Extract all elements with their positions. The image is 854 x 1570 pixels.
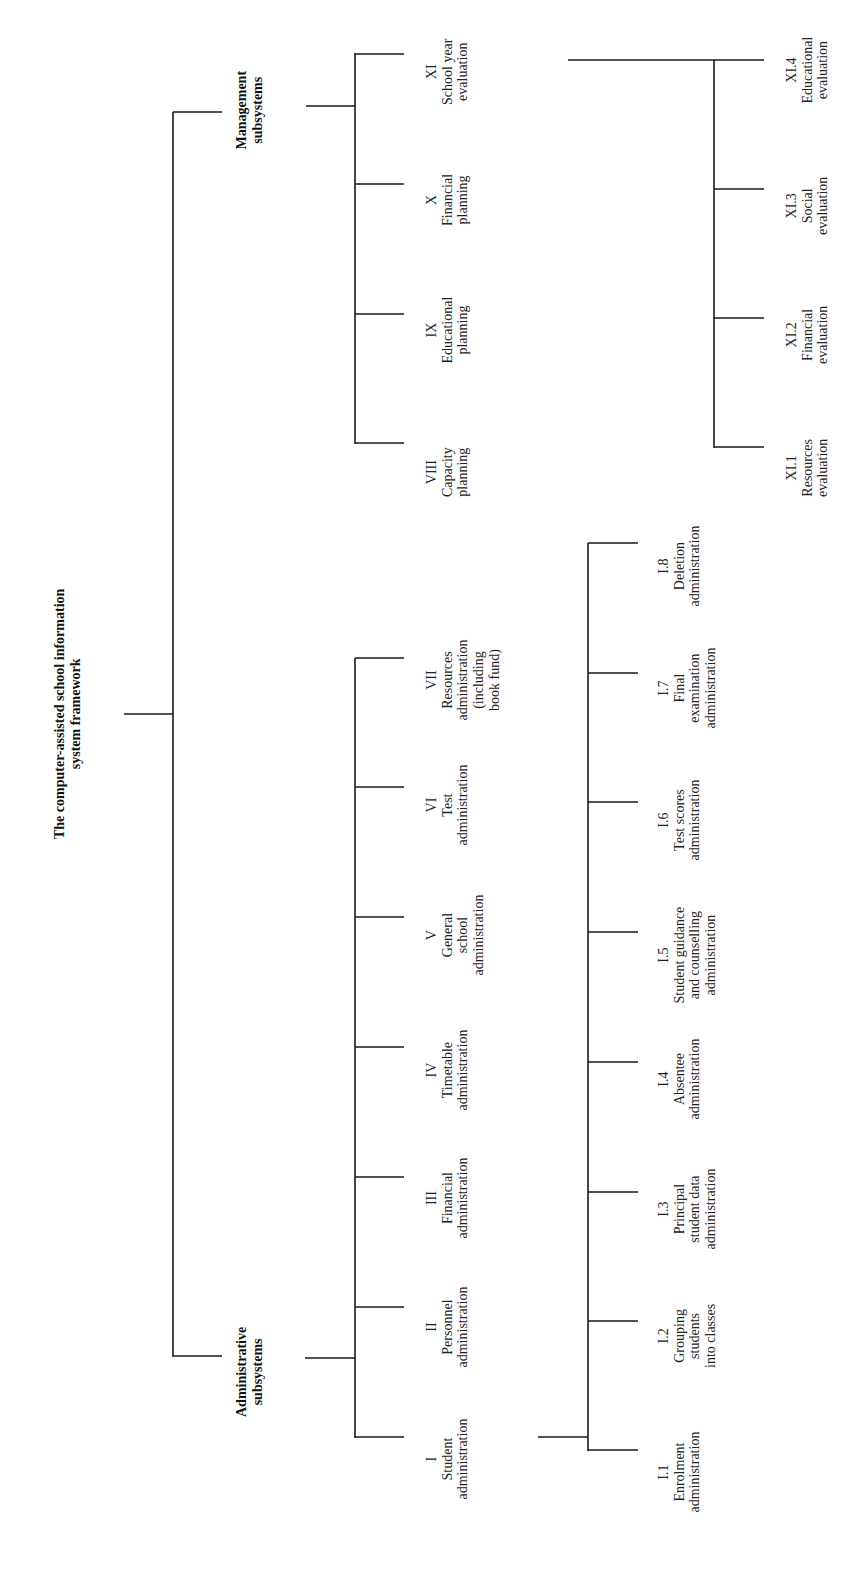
node-text: administration bbox=[455, 1158, 471, 1239]
node-text: administration bbox=[455, 765, 471, 846]
node-text: Financial bbox=[440, 174, 456, 226]
node-numeral: I.3 bbox=[656, 1169, 672, 1250]
node-numeral: VI bbox=[424, 765, 440, 846]
node-I.3: I.3 Principal student data administratio… bbox=[656, 1169, 719, 1250]
node-numeral: I.7 bbox=[656, 648, 672, 729]
node-text: Principal bbox=[672, 1169, 688, 1250]
node-text: administration bbox=[687, 1039, 703, 1120]
node-text: Enrolment bbox=[672, 1432, 688, 1513]
root-title: The computer-assisted school information… bbox=[52, 589, 83, 839]
label-line: subsystems bbox=[250, 71, 266, 150]
node-VIII: VIII Capacity planning bbox=[424, 447, 471, 497]
node-text: Financial bbox=[440, 1158, 456, 1239]
node-XI.4: XI.4 Educational evaluation bbox=[784, 37, 831, 104]
root-title-line-2: system framework bbox=[68, 589, 84, 839]
node-text: Student bbox=[440, 1419, 456, 1500]
node-XI.3: XI.3 Social evaluation bbox=[784, 177, 831, 235]
node-text: school bbox=[455, 895, 471, 976]
management-subsystems-label: Management subsystems bbox=[234, 71, 265, 150]
node-I.1: I.1 Enrolment administration bbox=[656, 1432, 703, 1513]
node-numeral: I.1 bbox=[656, 1432, 672, 1513]
node-I.7: I.7 Final examination administration bbox=[656, 648, 719, 729]
node-VI: VI Test administration bbox=[424, 765, 471, 846]
node-text: administration bbox=[455, 1287, 471, 1368]
node-text: planning bbox=[455, 447, 471, 497]
node-numeral: I.2 bbox=[656, 1304, 672, 1368]
node-text: Student guidance bbox=[672, 907, 688, 1004]
node-text: administration bbox=[455, 640, 471, 721]
node-text: evaluation bbox=[815, 177, 831, 235]
node-text: (including bbox=[471, 640, 487, 721]
node-II: II Personnel administration bbox=[424, 1287, 471, 1368]
label-line: Administrative bbox=[234, 1327, 250, 1417]
node-text: administration bbox=[687, 780, 703, 861]
node-I.2: I.2 Grouping students into classes bbox=[656, 1304, 719, 1368]
node-I.6: I.6 Test scores administration bbox=[656, 780, 703, 861]
label-line: Management bbox=[234, 71, 250, 150]
node-text: planning bbox=[455, 297, 471, 364]
node-text: Social bbox=[800, 177, 816, 235]
node-text: evaluation bbox=[815, 439, 831, 497]
node-IX: IX Educational planning bbox=[424, 297, 471, 364]
node-text: Test bbox=[440, 765, 456, 846]
node-text: Educational bbox=[800, 37, 816, 104]
node-X: X Financial planning bbox=[424, 174, 471, 226]
node-text: Personnel bbox=[440, 1287, 456, 1368]
node-text: administration bbox=[455, 1030, 471, 1111]
node-text: administration bbox=[471, 895, 487, 976]
node-I.8: I.8 Deletion administration bbox=[656, 526, 703, 607]
node-IV: IV Timetable administration bbox=[424, 1030, 471, 1111]
node-VII: VII Resources administration (including … bbox=[424, 640, 502, 721]
node-XI.1: XI.1 Resources evaluation bbox=[784, 439, 831, 497]
node-numeral: XI.3 bbox=[784, 177, 800, 235]
node-numeral: IX bbox=[424, 297, 440, 364]
node-numeral: I.5 bbox=[656, 907, 672, 1004]
administrative-subsystems-label: Administrative subsystems bbox=[234, 1327, 265, 1417]
node-text: evaluation bbox=[815, 306, 831, 364]
node-text: book fund) bbox=[487, 640, 503, 721]
node-text: students bbox=[687, 1304, 703, 1368]
node-text: School year bbox=[440, 39, 456, 105]
node-text: into classes bbox=[703, 1304, 719, 1368]
node-text: evaluation bbox=[815, 37, 831, 104]
node-numeral: III bbox=[424, 1158, 440, 1239]
node-text: administration bbox=[687, 1432, 703, 1513]
node-numeral: XI.4 bbox=[784, 37, 800, 104]
node-numeral: XI.1 bbox=[784, 439, 800, 497]
node-text: administration bbox=[703, 648, 719, 729]
node-numeral: VIII bbox=[424, 447, 440, 497]
node-text: administration bbox=[455, 1419, 471, 1500]
node-numeral: VII bbox=[424, 640, 440, 721]
node-text: Educational bbox=[440, 297, 456, 364]
node-text: planning bbox=[455, 174, 471, 226]
node-text: examination bbox=[687, 648, 703, 729]
node-numeral: IV bbox=[424, 1030, 440, 1111]
node-III: III Financial administration bbox=[424, 1158, 471, 1239]
node-text: Deletion bbox=[672, 526, 688, 607]
node-numeral: I bbox=[424, 1419, 440, 1500]
node-text: Financial bbox=[800, 306, 816, 364]
node-text: Capacity bbox=[440, 447, 456, 497]
node-text: Resources bbox=[800, 439, 816, 497]
node-text: Resources bbox=[440, 640, 456, 721]
node-V: V General school administration bbox=[424, 895, 487, 976]
node-text: Absentee bbox=[672, 1039, 688, 1120]
node-text: Test scores bbox=[672, 780, 688, 861]
node-XI: XI School year evaluation bbox=[424, 39, 471, 105]
node-numeral: XI.2 bbox=[784, 306, 800, 364]
node-I.5: I.5 Student guidance and counselling adm… bbox=[656, 907, 719, 1004]
node-text: and counselling bbox=[687, 907, 703, 1004]
node-numeral: II bbox=[424, 1287, 440, 1368]
node-numeral: I.8 bbox=[656, 526, 672, 607]
node-text: evaluation bbox=[455, 39, 471, 105]
node-text: student data bbox=[687, 1169, 703, 1250]
node-numeral: I.4 bbox=[656, 1039, 672, 1120]
node-numeral: V bbox=[424, 895, 440, 976]
node-numeral: I.6 bbox=[656, 780, 672, 861]
node-text: administration bbox=[687, 526, 703, 607]
node-text: administration bbox=[703, 907, 719, 1004]
node-I.4: I.4 Absentee administration bbox=[656, 1039, 703, 1120]
node-text: Final bbox=[672, 648, 688, 729]
node-text: Grouping bbox=[672, 1304, 688, 1368]
label-line: subsystems bbox=[250, 1327, 266, 1417]
